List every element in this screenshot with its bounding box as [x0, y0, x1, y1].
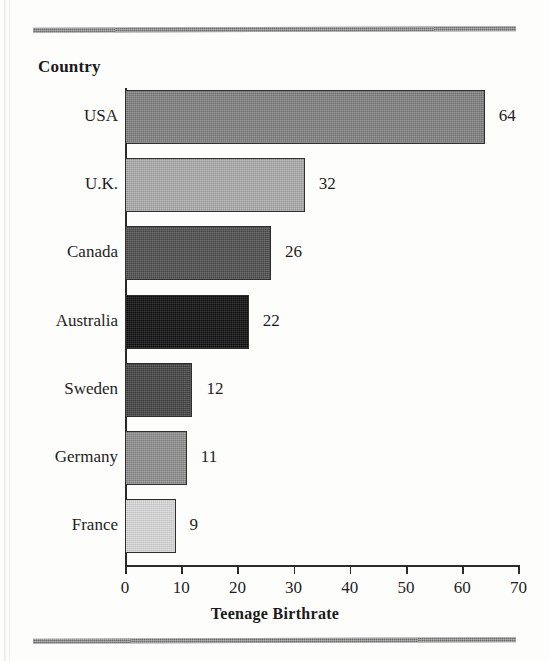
- x-axis-tick-label: 70: [498, 578, 538, 598]
- bar-australia: [125, 295, 249, 349]
- x-axis-tick: [294, 565, 296, 574]
- x-axis-tick-label: 40: [330, 578, 370, 598]
- figure-page: Country USA64U.K.32Canada26Australia22Sw…: [0, 0, 550, 661]
- bar-chart-plot: USA64U.K.32Canada26Australia22Sweden12Ge…: [0, 0, 550, 661]
- category-label: France: [18, 515, 118, 535]
- x-axis-tick: [462, 565, 464, 574]
- x-axis-tick: [181, 565, 183, 574]
- bar-value-label: 11: [201, 447, 217, 467]
- bar-value-label: 12: [206, 379, 223, 399]
- bar-sweden: [125, 363, 192, 417]
- x-axis-tick-label: 10: [161, 578, 201, 598]
- x-axis-tick-label: 30: [274, 578, 314, 598]
- x-axis-tick: [518, 565, 520, 574]
- category-label: Sweden: [18, 379, 118, 399]
- category-label: U.K.: [18, 174, 118, 194]
- bar-u-k: [125, 158, 305, 212]
- x-axis-title: Teenage Birthrate: [0, 605, 550, 623]
- category-label: USA: [18, 106, 118, 126]
- bar-germany: [125, 431, 187, 485]
- bar-value-label: 9: [190, 515, 199, 535]
- x-axis-tick-label: 0: [105, 578, 145, 598]
- x-axis-tick: [406, 565, 408, 574]
- category-label: Australia: [18, 311, 118, 331]
- bar-value-label: 32: [319, 174, 336, 194]
- bar-france: [125, 499, 176, 553]
- bar-value-label: 64: [499, 106, 516, 126]
- bar-value-label: 26: [285, 242, 302, 262]
- x-axis-tick-label: 20: [217, 578, 257, 598]
- bar-value-label: 22: [263, 311, 280, 331]
- bar-canada: [125, 226, 271, 280]
- x-axis-line: [125, 565, 520, 567]
- x-axis-tick: [125, 565, 127, 574]
- category-label: Canada: [18, 242, 118, 262]
- x-axis-tick-label: 60: [442, 578, 482, 598]
- x-axis-tick: [350, 565, 352, 574]
- category-label: Germany: [18, 447, 118, 467]
- bar-usa: [125, 90, 485, 144]
- x-axis-tick: [237, 565, 239, 574]
- x-axis-tick-label: 50: [386, 578, 426, 598]
